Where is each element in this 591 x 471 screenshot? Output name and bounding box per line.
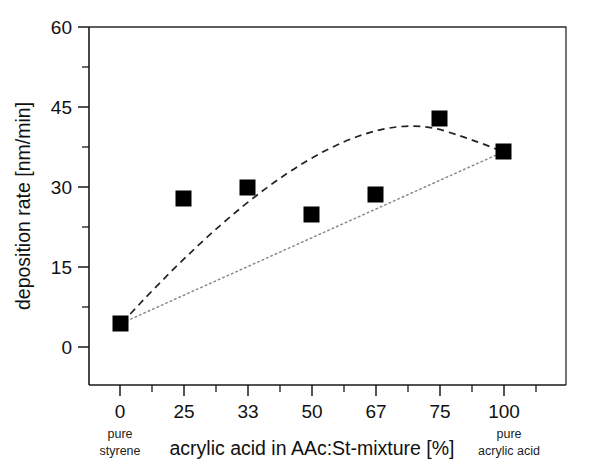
x-tick-label-25: 25 xyxy=(173,401,194,422)
data-point-75 xyxy=(432,111,447,126)
pure-styrene-line2: styrene xyxy=(100,444,141,458)
y-axis-title: deposition rate [nm/min] xyxy=(12,102,34,310)
y-tick-label-0: 0 xyxy=(61,337,72,358)
y-tick-label-60: 60 xyxy=(51,17,72,38)
pure-acrylic-acid-line1: pure xyxy=(496,427,521,441)
data-point-67 xyxy=(368,187,383,202)
data-point-50 xyxy=(304,207,319,222)
pure-acrylic-acid-line2: acrylic acid xyxy=(478,444,540,458)
data-point-0 xyxy=(113,316,128,331)
x-axis-title: acrylic acid in AAc:St-mixture [%] xyxy=(170,437,455,459)
x-tick-label-67: 67 xyxy=(365,401,386,422)
deposition-rate-chart: 60 45 30 15 0 0 25 xyxy=(0,0,591,471)
data-point-100 xyxy=(496,144,511,159)
x-tick-label-33: 33 xyxy=(237,401,258,422)
data-point-25 xyxy=(176,191,191,206)
y-tick-label-30: 30 xyxy=(51,177,72,198)
y-tick-label-15: 15 xyxy=(51,257,72,278)
data-point-33 xyxy=(240,180,255,195)
x-tick-label-0: 0 xyxy=(115,401,126,422)
chart-canvas: 60 45 30 15 0 0 25 xyxy=(0,0,591,471)
x-tick-label-50: 50 xyxy=(301,401,322,422)
x-tick-label-75: 75 xyxy=(429,401,450,422)
y-tick-label-45: 45 xyxy=(51,97,72,118)
pure-styrene-line1: pure xyxy=(107,427,132,441)
x-tick-label-100: 100 xyxy=(488,401,520,422)
